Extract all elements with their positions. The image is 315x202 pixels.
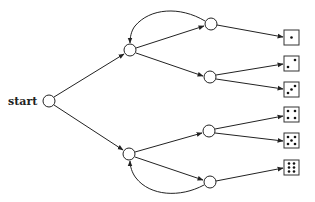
die-face-3-icon: [284, 82, 299, 97]
edge-TT-loop-to-T: [130, 161, 204, 193]
edge-H-to-HT: [136, 53, 203, 76]
node-start: [43, 95, 55, 107]
edge-HT-to-die3: [216, 79, 283, 89]
node-TT: [204, 176, 216, 188]
die-face-1-icon: [284, 30, 299, 45]
edge-T-to-TH: [135, 133, 202, 152]
node-T: [123, 148, 135, 160]
node-HT: [204, 71, 216, 83]
node-TH: [203, 125, 215, 137]
edge-T-to-TT: [135, 157, 203, 180]
edge-start-to-T: [54, 105, 123, 150]
die-face-2-icon: [284, 56, 299, 71]
die-face-5-icon: [284, 133, 299, 148]
die-simulation-tree: start: [0, 0, 315, 202]
edge-TH-to-die5: [215, 133, 283, 141]
die-face-6-icon: [284, 160, 299, 175]
edge-start-to-H: [54, 54, 124, 97]
edge-HH-to-die1: [217, 25, 283, 37]
edge-HT-to-die2: [216, 64, 283, 75]
edge-TH-to-die4: [215, 116, 283, 129]
node-HH: [205, 18, 217, 30]
die-face-4-icon: [284, 107, 299, 122]
edge-H-to-HH: [136, 26, 204, 48]
edge-TT-to-die6: [216, 168, 283, 181]
edges: [54, 11, 283, 193]
node-H: [124, 44, 136, 56]
start-label: start: [8, 95, 38, 108]
